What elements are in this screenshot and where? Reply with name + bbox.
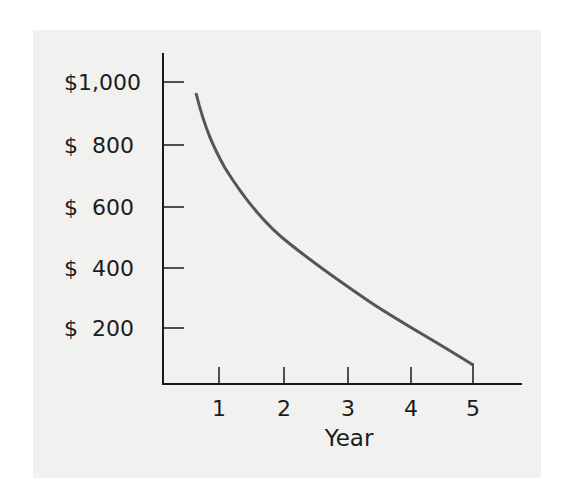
depreciation-line-chart: $1,000 $ 800 $ 600 $ 400 $ 200 1 2 3 4 5…	[0, 0, 564, 497]
y-tick-label: $ 800	[64, 133, 134, 158]
x-tick-label: 5	[466, 396, 480, 421]
y-tick-label: $ 400	[64, 256, 134, 281]
x-tick-label: 2	[277, 396, 291, 421]
y-ticks	[163, 82, 184, 328]
x-tick-label: 1	[212, 396, 226, 421]
value-curve	[196, 93, 473, 365]
x-tick-labels: 1 2 3 4 5	[212, 396, 480, 421]
y-tick-labels: $1,000 $ 800 $ 600 $ 400 $ 200	[64, 70, 141, 341]
y-tick-label: $ 200	[64, 316, 134, 341]
x-tick-label: 3	[341, 396, 355, 421]
x-axis-title: Year	[324, 425, 374, 451]
y-tick-label: $ 600	[64, 195, 134, 220]
x-ticks	[219, 363, 473, 384]
x-tick-label: 4	[404, 396, 418, 421]
y-tick-label: $1,000	[64, 70, 141, 95]
